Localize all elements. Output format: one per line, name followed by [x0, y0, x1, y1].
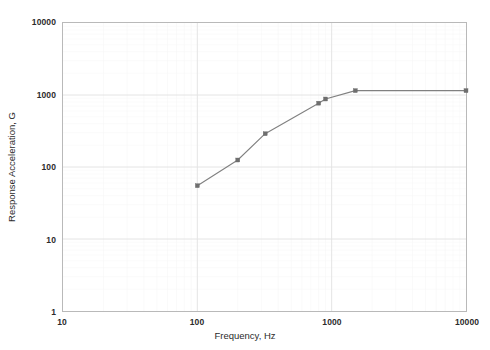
x-axis-title: Frequency, Hz [0, 330, 490, 341]
data-point-marker [353, 89, 357, 93]
x-tick-label: 100 [190, 317, 204, 327]
data-point-marker [324, 97, 328, 101]
data-series-layer [63, 23, 466, 311]
data-point-marker [464, 89, 468, 93]
series-line-0 [197, 91, 466, 186]
data-point-marker [236, 158, 240, 162]
chart-container: 110100100010000 10100100010000 Frequency… [0, 0, 490, 350]
data-point-marker [195, 184, 199, 188]
data-point-marker [317, 101, 321, 105]
x-tick-label: 10000 [455, 317, 479, 327]
y-axis-title: Response Acceleration, G [6, 22, 17, 312]
x-tick-label: 1000 [322, 317, 341, 327]
data-point-marker [263, 132, 267, 136]
x-tick-label: 10 [57, 317, 67, 327]
plot-area [62, 22, 467, 312]
